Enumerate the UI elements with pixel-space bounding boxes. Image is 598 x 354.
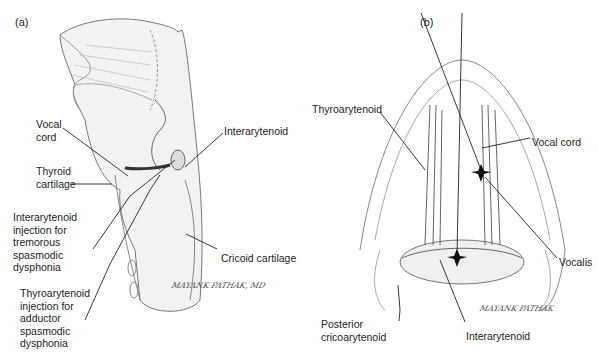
label-interarytenoid-a: Interarytenoid [224, 125, 288, 138]
label-thyroarytenoid-b: Thyroarytenoid [312, 103, 382, 116]
label-vocal-cord-b: Vocal cord [532, 136, 581, 149]
label-interarytenoid-b: Interarytenoid [466, 330, 530, 343]
panel-a-label: (a) [15, 16, 28, 28]
label-thyroarytenoid-injection: Thyroarytenoid injection for adductor sp… [20, 287, 90, 350]
label-thyroid-cartilage: Thyroid cartilage [36, 165, 76, 190]
larynx-sagittal-drawing [60, 19, 202, 311]
label-posterior-cricoarytenoid: Posterior cricoarytenoid [321, 318, 386, 343]
label-vocal-cord-a: Vocal cord [36, 118, 62, 143]
panel-b-label: (b) [420, 16, 433, 28]
artist-signature-b: MAYANK PATHAK [479, 304, 555, 313]
label-cricoid-cartilage: Cricoid cartilage [221, 252, 296, 265]
label-vocalis: Vocalis [559, 256, 592, 269]
larynx-superior-drawing [360, 60, 565, 310]
label-interarytenoid-injection: Interarytenoid injection for tremorous s… [13, 211, 77, 274]
artist-signature-a: MAYANK PATHAK, MD [171, 281, 267, 290]
